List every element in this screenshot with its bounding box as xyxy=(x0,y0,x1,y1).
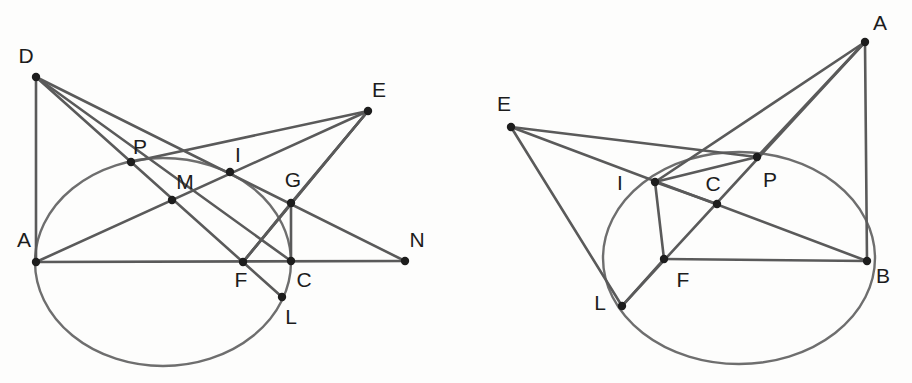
right-circle xyxy=(603,152,875,364)
right-point-I xyxy=(651,178,659,186)
right-label-F: F xyxy=(677,268,690,291)
panel-left-diagram: DEPIMGANFCL xyxy=(17,44,425,366)
left-segment-AE xyxy=(36,111,368,262)
left-point-I xyxy=(226,168,234,176)
left-label-L: L xyxy=(285,305,297,328)
right-segment-FB xyxy=(664,259,867,261)
left-label-F: F xyxy=(235,268,248,291)
left-label-I: I xyxy=(235,143,241,166)
left-point-F xyxy=(239,258,247,266)
right-point-C xyxy=(713,200,721,208)
right-segment-EL xyxy=(511,127,622,306)
left-segment-DC xyxy=(36,77,291,261)
right-segment-AI xyxy=(655,42,865,182)
left-point-M xyxy=(168,196,176,204)
right-point-P xyxy=(753,153,761,161)
right-segment-AB xyxy=(865,42,867,261)
right-label-E: E xyxy=(497,92,511,115)
left-label-A: A xyxy=(17,228,31,251)
right-point-L xyxy=(618,302,626,310)
right-point-E xyxy=(507,123,515,131)
left-label-G: G xyxy=(285,168,301,191)
right-segment-AP xyxy=(757,42,865,157)
left-segment-DN xyxy=(36,77,405,261)
left-point-E xyxy=(364,107,372,115)
left-point-N xyxy=(401,257,409,265)
right-segment-IF xyxy=(655,182,664,259)
right-label-B: B xyxy=(876,264,890,287)
left-point-C xyxy=(287,257,295,265)
left-label-N: N xyxy=(409,228,424,251)
right-label-I: I xyxy=(617,171,623,194)
left-segment-AN xyxy=(36,261,405,262)
left-point-D xyxy=(32,73,40,81)
diagram-canvas: DEPIMGANFCL AEPICFBL xyxy=(0,0,912,383)
left-label-M: M xyxy=(176,170,194,193)
right-point-F xyxy=(660,255,668,263)
geometry-figure: DEPIMGANFCL AEPICFBL xyxy=(0,0,912,383)
right-label-P: P xyxy=(763,168,777,191)
left-label-C: C xyxy=(296,268,311,291)
right-label-L: L xyxy=(594,291,606,314)
right-point-A xyxy=(861,38,869,46)
panel-right-diagram: AEPICFBL xyxy=(497,11,890,364)
left-point-G xyxy=(287,199,295,207)
left-point-P xyxy=(127,158,135,166)
left-label-P: P xyxy=(133,135,147,158)
left-label-E: E xyxy=(372,78,386,101)
right-label-C: C xyxy=(705,172,720,195)
right-point-B xyxy=(863,257,871,265)
right-label-A: A xyxy=(873,11,887,34)
left-point-A xyxy=(32,258,40,266)
left-point-L xyxy=(278,293,286,301)
left-label-D: D xyxy=(18,44,33,67)
right-segment-FL xyxy=(622,259,664,306)
